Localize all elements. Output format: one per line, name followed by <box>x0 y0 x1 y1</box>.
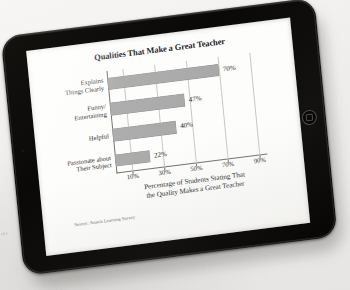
category-label: ExplainsThings Clearly <box>30 76 109 101</box>
background-edge-text: t h e <box>1 230 16 237</box>
x-tick-label: 10% <box>127 172 140 180</box>
bar-value-label: 70% <box>222 64 236 74</box>
home-button[interactable] <box>301 109 317 126</box>
x-tick-label: 90% <box>253 156 266 164</box>
bar-value-label: 22% <box>154 150 168 160</box>
front-camera-icon <box>21 149 25 153</box>
x-tick-label: 70% <box>222 160 235 168</box>
category-label-line-1: Helpful <box>35 132 109 149</box>
bar-value-label: 47% <box>188 94 202 104</box>
tablet-screen[interactable]: Qualities That Make a Great Teacher Expl… <box>26 18 310 256</box>
chart-document: Qualities That Make a Great Teacher Expl… <box>26 18 310 256</box>
bar-value-label: 40% <box>180 121 194 131</box>
tablet-bezel: Qualities That Make a Great Teacher Expl… <box>1 0 338 276</box>
bar[interactable] <box>112 121 177 142</box>
category-label: Helpful <box>35 131 113 148</box>
category-label: Funny/Entertaining <box>32 102 111 127</box>
screenshot-scene: t h e Qualities That Make a Great Teache… <box>0 0 350 290</box>
x-tick-label: 30% <box>158 168 171 176</box>
source-note: Source: Avanta Learning Survey <box>74 215 135 228</box>
x-tick-label: 50% <box>190 164 203 172</box>
bar[interactable] <box>115 150 151 167</box>
category-label: Passionate aboutTheir Subject <box>37 153 116 178</box>
chart-plot-area: ExplainsThings Clearly70%Funny/Entertain… <box>106 52 267 174</box>
tablet-device[interactable]: Qualities That Make a Great Teacher Expl… <box>1 0 350 290</box>
bar[interactable] <box>110 94 186 116</box>
